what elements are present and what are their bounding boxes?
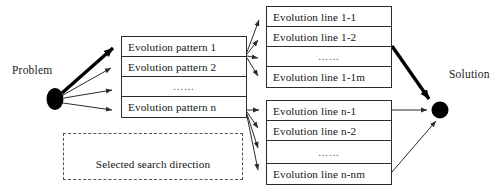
edge-problem-to-pattern-n	[63, 103, 112, 110]
pattern-row-2[interactable]: Evolution pattern 2	[122, 57, 246, 77]
pattern-row-1[interactable]: Evolution pattern 1	[122, 37, 246, 57]
legend-box: Selected search direction	[63, 133, 243, 180]
edge-pattern1-to-line-ellipsis	[247, 56, 258, 58]
evolution-line-group-1: Evolution line 1-1 Evolution line 1-2 ………	[266, 6, 392, 88]
edge-problem-to-pattern-ellipsis	[64, 90, 112, 98]
line-row-n-nm[interactable]: Evolution line n-nm	[267, 164, 391, 184]
diagram-canvas: Problem Solution Evolution pattern 1 Evo…	[0, 0, 503, 193]
edge-problem-to-pattern-1	[62, 48, 113, 93]
edge-line-n-nm-to-solution	[392, 121, 436, 172]
edge-patternn-to-line-n-ellipsis	[247, 114, 258, 148]
edge-problem-to-pattern-2	[63, 68, 111, 95]
line-row-n-1[interactable]: Evolution line n-1	[267, 101, 391, 121]
evolution-pattern-group: Evolution pattern 1 Evolution pattern 2 …	[121, 36, 247, 118]
problem-node	[47, 88, 64, 110]
evolution-line-group-n: Evolution line n-1 Evolution line n-2 ………	[266, 100, 392, 185]
legend-caption: Selected search direction	[64, 158, 242, 170]
line-row-1-2[interactable]: Evolution line 1-2	[267, 27, 391, 47]
solution-label: Solution	[449, 68, 490, 80]
line-row-n-ellipsis: ……	[267, 141, 391, 164]
edge-pattern1-to-line-1-1m	[247, 58, 258, 76]
edge-line-1-2-to-solution	[392, 46, 429, 99]
problem-label: Problem	[12, 64, 52, 76]
line-row-1-1m[interactable]: Evolution line 1-1m	[267, 67, 391, 87]
edge-patternn-to-line-n-2	[247, 112, 258, 128]
line-row-1-ellipsis: ……	[267, 47, 391, 67]
edge-patternn-to-line-n-nm	[247, 116, 258, 170]
line-row-1-1[interactable]: Evolution line 1-1	[267, 7, 391, 27]
edge-pattern1-to-line-1-1	[247, 20, 259, 52]
line-row-n-2[interactable]: Evolution line n-2	[267, 121, 391, 141]
pattern-row-ellipsis: ……	[122, 77, 246, 97]
solution-node	[432, 102, 449, 119]
edge-pattern1-to-line-1-2	[247, 40, 258, 54]
pattern-row-n[interactable]: Evolution pattern n	[122, 97, 246, 117]
